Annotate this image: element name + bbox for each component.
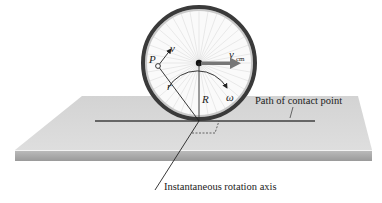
label-r: r	[167, 80, 172, 92]
label-p: P	[148, 53, 156, 65]
label-path-of-contact-point: Path of contact point	[255, 95, 342, 106]
label-vcm: v	[229, 48, 234, 60]
rolling-wheel-diagram: P v v cm r R ω Path of contact point Ins…	[0, 0, 382, 203]
plane-front-edge	[15, 150, 372, 161]
label-R: R	[201, 93, 209, 105]
label-vcm-sub: cm	[236, 55, 245, 63]
label-v: v	[170, 42, 175, 54]
label-omega: ω	[226, 91, 234, 103]
point-p	[156, 64, 161, 69]
label-instantaneous-rotation-axis: Instantaneous rotation axis	[164, 181, 277, 192]
